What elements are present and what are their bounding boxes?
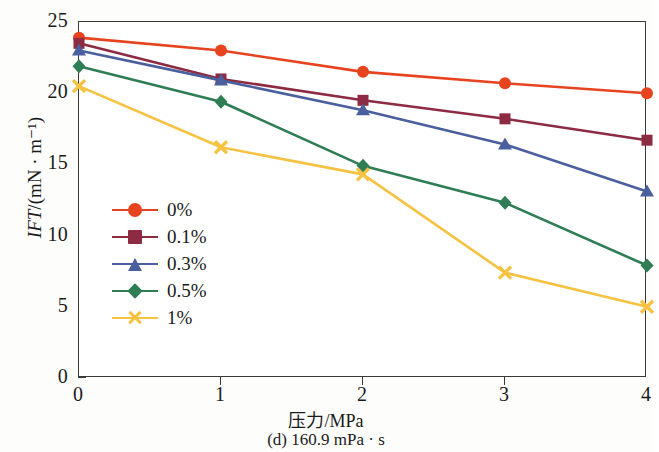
- data-point-marker: [357, 66, 369, 78]
- x-axis-tick-label: 2: [342, 384, 382, 404]
- triangle-marker-icon: [128, 258, 142, 271]
- data-point-marker: [73, 59, 86, 73]
- y-axis-title: IFT/(mN · m⁻¹): [23, 48, 46, 308]
- legend-swatch: [112, 229, 158, 245]
- x-marker-icon: [128, 311, 142, 325]
- square-marker-icon: [128, 230, 142, 244]
- series-line: [79, 43, 647, 140]
- data-point-marker: [215, 95, 228, 109]
- data-point-marker: [642, 135, 653, 146]
- y-axis-tick-label: 25: [28, 10, 68, 30]
- figure-caption: (d) 160.9 mPa · s: [0, 430, 652, 450]
- x-axis-tick-label: 0: [58, 384, 98, 404]
- x-axis-tick-label: 4: [626, 384, 659, 404]
- legend-item-01[interactable]: 0.1%: [112, 223, 207, 250]
- legend-item-1[interactable]: 1%: [112, 304, 207, 331]
- x-axis-tick-label: 1: [200, 384, 240, 404]
- data-point-marker: [500, 113, 511, 124]
- legend-swatch: [112, 202, 158, 218]
- x-axis-title: 压力/MPa: [0, 406, 652, 432]
- data-point-marker: [499, 196, 512, 210]
- x-axis-tick-label: 3: [484, 384, 524, 404]
- legend-label: 1%: [167, 308, 192, 327]
- legend-swatch: [112, 283, 158, 299]
- legend-item-05[interactable]: 0.5%: [112, 277, 207, 304]
- circle-marker-icon: [128, 203, 142, 217]
- data-point-marker: [641, 259, 654, 273]
- y-axis-title-symbol: IFT: [24, 210, 45, 239]
- y-axis-tick-label: 0: [28, 366, 68, 386]
- legend-swatch: [112, 310, 158, 326]
- data-point-marker: [499, 77, 511, 89]
- legend-item-03[interactable]: 0.3%: [112, 250, 207, 277]
- legend-label: 0%: [167, 200, 192, 219]
- diamond-marker-icon: [127, 283, 142, 298]
- legend-item-0[interactable]: 0%: [112, 196, 207, 223]
- y-axis-title-units: /(mN · m⁻¹): [24, 117, 45, 210]
- series-0: [73, 32, 653, 100]
- legend-swatch: [112, 256, 158, 272]
- data-point-marker: [73, 80, 85, 92]
- data-point-marker: [215, 44, 227, 56]
- legend-label: 0.3%: [167, 254, 207, 273]
- legend-label: 0.1%: [167, 227, 207, 246]
- data-point-marker: [641, 87, 653, 99]
- legend-label: 0.5%: [167, 281, 207, 300]
- series-01: [74, 38, 653, 146]
- chart-legend: 0%0.1%0.3%0.5%1%: [112, 196, 207, 331]
